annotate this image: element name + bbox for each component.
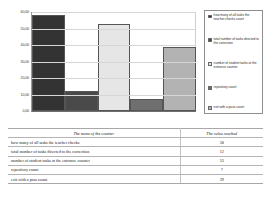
legend-item[interactable]: number of student tasks at the entrance …	[208, 62, 260, 70]
column-header-value: The value reached	[180, 129, 263, 138]
grid-line	[32, 62, 196, 63]
chart-legend: how many of all tasks the teacher checks…	[204, 10, 263, 114]
legend-label: total number of tasks directed to the co…	[214, 38, 260, 46]
cell-counter-value: 39	[180, 174, 263, 183]
legend-swatch-icon	[208, 86, 212, 90]
table-row: number of student tasks at the entrance …	[8, 156, 263, 165]
y-tick-label: 10,00	[21, 93, 30, 97]
y-tick-label: 50,00	[21, 27, 30, 31]
legend-label: exit with a pass count	[214, 106, 244, 110]
cell-counter-name: total number of tasks directed to the co…	[8, 147, 180, 156]
table-row: total number of tasks directed to the co…	[8, 147, 263, 156]
legend-item[interactable]: how many of all tasks the teacher checks…	[208, 14, 260, 22]
grid-line	[32, 29, 196, 30]
cell-counter-value: 7	[180, 165, 263, 174]
column-header-name: The name of the counter	[8, 129, 180, 138]
cell-counter-name: exit with a pass count	[8, 174, 180, 183]
y-axis-tick-labels: 0,0010,0020,0030,0040,0050,0060,00	[8, 8, 30, 114]
y-tick-label: 30,00	[21, 60, 30, 64]
table-header-row: The name of the counter The value reache…	[8, 129, 263, 138]
y-tick-label: 0,00	[22, 109, 29, 113]
cell-counter-value: 53	[180, 156, 263, 165]
y-tick-label: 60,00	[21, 10, 30, 14]
grid-line	[32, 45, 196, 46]
y-tick-label: 40,00	[21, 43, 30, 47]
counters-table: The name of the counter The value reache…	[8, 128, 263, 184]
bar	[32, 15, 65, 111]
legend-item[interactable]: total number of tasks directed to the co…	[208, 38, 260, 46]
legend-label: how many of all tasks the teacher checks…	[214, 14, 260, 22]
legend-label: repository count	[214, 86, 237, 90]
table-row: how many of all tasks the teacher checks…	[8, 138, 263, 147]
grid-line	[32, 78, 196, 79]
cell-counter-name: repository count	[8, 165, 180, 174]
bar-chart: 0,0010,0020,0030,0040,0050,0060,00 how m…	[8, 8, 263, 120]
bar	[98, 24, 131, 111]
cell-counter-value: 12	[180, 147, 263, 156]
report-page: 0,0010,0020,0030,0040,0050,0060,00 how m…	[0, 0, 271, 202]
y-tick-label: 20,00	[21, 76, 30, 80]
legend-swatch-icon	[208, 38, 212, 42]
legend-label: number of student tasks at the entrance …	[214, 62, 260, 70]
legend-item[interactable]: repository count	[208, 86, 260, 90]
cell-counter-name: number of student tasks at the entrance …	[8, 156, 180, 165]
legend-swatch-icon	[208, 15, 212, 19]
legend-swatch-icon	[208, 106, 212, 110]
cell-counter-value: 58	[180, 138, 263, 147]
legend-item[interactable]: exit with a pass count	[208, 106, 260, 110]
table-row: exit with a pass count39	[8, 174, 263, 183]
bar	[130, 99, 163, 111]
plot-region	[31, 12, 196, 112]
grid-line	[32, 12, 196, 13]
legend-swatch-icon	[208, 62, 212, 66]
grid-line	[32, 95, 196, 96]
table-row: repository count7	[8, 165, 263, 174]
chart-plot-wrapper: 0,0010,0020,0030,0040,0050,0060,00	[8, 8, 198, 120]
cell-counter-name: how many of all tasks the teacher checks	[8, 138, 180, 147]
table-body: how many of all tasks the teacher checks…	[8, 138, 263, 184]
